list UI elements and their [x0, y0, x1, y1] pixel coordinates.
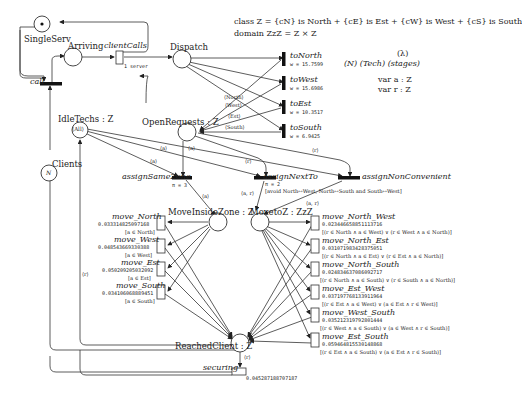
move-west-south-rate: 0.035212319792801444: [322, 318, 382, 323]
move-west-south-guard: [(r ∈ West ∧ a ∈ South) ∨ (a ∈ West ∧ r …: [320, 326, 449, 331]
move-est-rate: 0.050209205032092: [102, 268, 153, 273]
move-south-label: move_South: [116, 282, 165, 290]
move-north-west-label: move_North_West: [322, 213, 395, 221]
move-est-west-guard: [(r ∈ Est ∧ a ∈ West) ∨ (a ∈ Est ∧ r ∈ W…: [322, 302, 438, 307]
move-est-south-label: move_Est_South: [322, 333, 389, 341]
securing-rate: 0.045287188707187: [246, 376, 297, 381]
move-north-south-label: move_North_South: [322, 261, 399, 269]
transition-call-label: call: [30, 78, 44, 86]
place-single-serv-label: SingleServ: [24, 35, 71, 44]
move-north-est-label: move_North_Est: [322, 237, 389, 245]
transition-assign-non-convenient-label: assignNonConvenient: [362, 173, 451, 181]
clients-marking: N: [46, 170, 51, 176]
move-south-guard: [a ∈ South]: [125, 299, 155, 304]
move-est-south-guard: [(r ∈ Est ∧ a ∈ South) ∨ (a ∈ Est ∧ r ∈ …: [320, 350, 441, 355]
place-dispatch-label: Dispatch: [170, 43, 208, 52]
transition-to-west-label: toWest: [290, 76, 318, 84]
transition-assign-next-to-label: assignNextTo: [263, 173, 318, 181]
arc-label-south: ⟨South⟩: [225, 125, 245, 130]
transition-to-est-label: toEst: [290, 100, 311, 108]
assign-next-to-priority: π = 2: [265, 182, 280, 187]
arc-label-r-loop: ⟨r⟩: [82, 272, 89, 277]
move-north-south-rate: 0.024834637086092717: [322, 270, 382, 275]
arc-label-west: ⟨West⟩: [225, 103, 242, 108]
transition-securing-label: securing: [203, 364, 238, 372]
to-south-weight: w = 6.9425: [290, 134, 320, 139]
arc-label-a-2: ⟨a⟩: [160, 146, 167, 151]
transition-client-calls-label: clientCalls: [104, 42, 147, 50]
arc-label-a-1: ⟨a⟩: [188, 146, 195, 151]
arc-label-ar-1: ⟨a, r⟩: [241, 191, 254, 196]
place-clients-label: Clients: [52, 160, 82, 169]
arc-label-a-3: ⟨a⟩: [150, 159, 157, 164]
move-est-west-rate: 0.037197768133911964: [322, 294, 382, 299]
transition-to-north-label: toNorth: [290, 52, 322, 60]
place-open-requests-label: OpenRequests : Z: [142, 118, 219, 127]
idle-techs-marking: ⟨All⟩: [72, 127, 84, 133]
arc-label-r-2: ⟨r⟩: [312, 148, 319, 153]
arc-label-a-4: ⟨a⟩: [202, 194, 209, 199]
move-south-rate: 0.034106068889451: [102, 291, 153, 296]
var-a: var a : Z: [378, 76, 412, 84]
move-north-west-guard: [(r ∈ North ∧ a ∈ West) ∨ (r ∈ West ∧ a …: [322, 230, 452, 235]
place-reached-client-label: ReachedClient : Z: [175, 342, 252, 351]
transition-to-south-label: toSouth: [290, 124, 322, 132]
move-north-est-rate: 0.031071983428375051: [322, 246, 382, 251]
domain-declaration: domain ZzZ = Z × Z: [234, 30, 317, 38]
move-north-west-rate: 0.023446658851113716: [322, 222, 382, 227]
class-declaration: class Z = {cN} is North + {cE} is Est + …: [234, 18, 522, 26]
move-north-est-guard: [(r ∈ North ∧ a ∈ Est) ∨ (r ∈ Est ∧ a ∈ …: [322, 254, 443, 259]
var-r: var r : Z: [378, 86, 411, 94]
arc-label-north: ⟨North⟩: [224, 95, 244, 100]
to-est-weight: w = 10.3517: [290, 110, 323, 115]
move-west-rate: 0.048543669330388: [98, 245, 149, 250]
move-west-south-label: move_West_South: [322, 309, 395, 317]
assign-same-zone-priority: π = 3: [172, 183, 187, 188]
move-est-south-rate: 0.059464815530148868: [322, 342, 382, 347]
place-idle-techs-label: IdleTechs : Z: [58, 115, 113, 124]
place-arriving-label: Arriving: [68, 42, 103, 51]
move-est-label: move_Est: [121, 259, 160, 267]
assign-next-to-guard: [avoid North↔West, North↔South and South…: [265, 189, 402, 194]
arc-label-ar-2: ⟨a, r⟩: [306, 201, 319, 206]
place-move-to-z-label: MovetoZ : ZzZ: [250, 208, 313, 217]
net-params: (N) (Tech) (stages): [344, 60, 420, 68]
client-calls-server: 1 server: [124, 64, 148, 69]
move-north-label: move_North: [112, 213, 162, 221]
lambda-param: (λ): [397, 50, 408, 58]
arc-label-est: ⟨Est⟩: [228, 114, 241, 119]
move-west-label: move_West: [114, 236, 159, 244]
arc-label-r-1: ⟨r⟩: [245, 159, 252, 164]
arc-label-r-securing: ⟨r⟩: [244, 355, 251, 360]
transition-assign-same-zone-label: assignSameZone: [122, 173, 191, 181]
move-north-south-guard: [(r ∈ North ∧ a ∈ South) ∨ (r ∈ South ∧ …: [320, 278, 455, 283]
to-west-weight: w = 15.6986: [290, 86, 323, 91]
move-north-rate: 0.033314825097168: [98, 222, 149, 227]
to-north-weight: w = 15.7599: [290, 62, 323, 67]
place-move-inside-zone-label: MoveInsideZone : Z: [168, 208, 254, 217]
move-est-west-label: move_Est_West: [322, 285, 384, 293]
